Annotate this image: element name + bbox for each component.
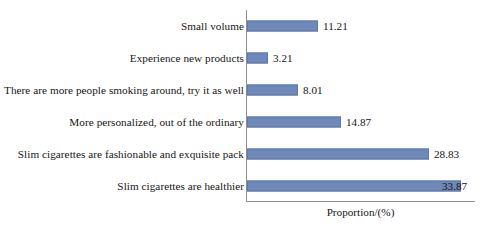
x-axis-title: Proportion/(%) bbox=[246, 205, 475, 219]
value-label: 11.21 bbox=[323, 20, 348, 33]
category-label: Experience new products bbox=[130, 52, 244, 65]
bar-row: Experience new products 3.21 bbox=[0, 42, 485, 74]
plot-area: Small volume 11.21 Experience new produc… bbox=[0, 0, 485, 230]
bar-row: More personalized, out of the ordinary 1… bbox=[0, 106, 485, 138]
bar-row: Slim cigarettes are fashionable and exqu… bbox=[0, 138, 485, 170]
bar-row: Small volume 11.21 bbox=[0, 10, 485, 42]
bar-chart: Small volume 11.21 Experience new produc… bbox=[0, 0, 485, 230]
value-label: 8.01 bbox=[303, 84, 323, 97]
value-label: 33.87 bbox=[442, 180, 467, 193]
category-label: Slim cigarettes are fashionable and exqu… bbox=[18, 148, 244, 161]
bar-row: There are more people smoking around, tr… bbox=[0, 74, 485, 106]
value-label: 28.83 bbox=[434, 148, 459, 161]
bar bbox=[247, 149, 429, 160]
category-label: More personalized, out of the ordinary bbox=[69, 116, 244, 129]
value-label: 14.87 bbox=[346, 116, 371, 129]
bar bbox=[247, 53, 268, 64]
category-label: Slim cigarettes are healthier bbox=[117, 180, 244, 193]
bar bbox=[247, 117, 341, 128]
bar-row: Slim cigarettes are healthier 33.87 bbox=[0, 170, 485, 202]
category-label: There are more people smoking around, tr… bbox=[4, 84, 244, 97]
bar bbox=[247, 181, 461, 192]
category-label: Small volume bbox=[181, 20, 244, 33]
bar bbox=[247, 85, 298, 96]
value-label: 3.21 bbox=[273, 52, 293, 65]
bar-rows: Small volume 11.21 Experience new produc… bbox=[0, 10, 485, 202]
bar bbox=[247, 21, 318, 32]
